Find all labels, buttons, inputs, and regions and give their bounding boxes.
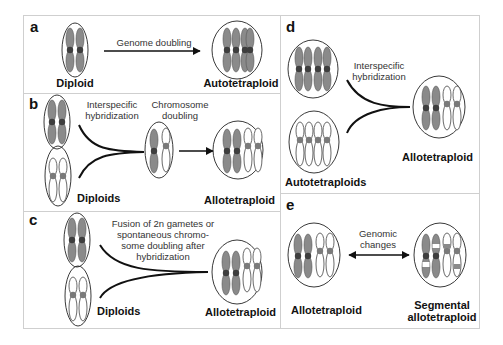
panel-e-letter: e [286,196,294,213]
diploid-light-cell [45,146,71,206]
genomic-changes-label-1: Genomic [359,228,397,239]
merge-curve-bottom [347,107,410,133]
allotetraploid-label: Allotetraploid [291,304,362,316]
allotetraploid-cell [213,121,263,179]
diploids-label: Diploids [77,192,120,204]
hybridization-label-1: Interspecific [87,99,138,110]
fusion-label-1: Fusion of 2n gametes or [112,218,214,229]
panel-a: a Diploid Genome doubling Autotetraploid [30,18,279,89]
diploid-light-cell [65,266,91,326]
autotetraploid-cell [212,21,262,79]
hybridization-label-2: hybridization [85,110,138,121]
allotetraploid-cell [413,76,465,138]
allotetraploid-label: Allotetraploid [204,194,275,206]
autotetraploids-label: Autotetraploids [285,176,366,188]
polyploidy-figure: a Diploid Genome doubling Autotetraploid… [0,0,503,345]
fusion-label-3: some doubling after [121,240,204,251]
segmental-allotetraploid-cell [414,223,466,287]
allotetraploid-label: Allotetraploid [402,151,473,163]
merge-curve-top [347,80,410,107]
doubling-label-2: doubling [162,110,198,121]
autotetraploid-dark-cell [288,40,338,98]
diploids-label: Diploids [97,305,140,317]
panel-c: c Diploids Fusion of 2n gametes or spont… [29,211,276,326]
segmental-label-2: allotetraploid [407,311,476,323]
autotetraploid-light-cell [289,111,339,173]
segmental-label-1: Segmental [414,299,470,311]
panel-d-letter: d [286,18,295,35]
panel-a-letter: a [30,18,39,35]
diploid-cell [62,23,88,77]
hybridization-label-2: hybridization [352,71,405,82]
panel-c-letter: c [29,211,37,228]
genome-doubling-label: Genome doubling [117,37,192,48]
genomic-changes-label-2: changes [360,239,396,250]
fusion-label-2: spontaneous chromo- [117,229,209,240]
allotetraploid-cell [212,240,262,304]
doubling-label-1: Chromosome [151,99,208,110]
diploid-dark-cell [44,95,70,149]
hybridization-label-1: Interspecific [354,60,405,71]
panel-b: b Diploids Interspecific hybridization C… [29,95,275,206]
allotetraploid-label: Allotetraploid [205,306,276,318]
merge-curve-bottom [100,272,208,298]
diploid-label: Diploid [56,77,93,89]
diploid-dark-cell [64,213,90,267]
panel-d: d Autotetraploids Interspecific hybridiz… [285,18,473,188]
fusion-label-4: hybridization [136,251,189,262]
autotetraploid-label: Autotetraploid [203,77,278,89]
hybrid-cell [145,122,173,178]
panel-b-letter: b [29,95,38,112]
panel-e: e Allotetraploid Genomic changes Segment… [286,196,477,323]
allotetraploid-cell [288,223,340,287]
merge-curve-top [79,125,144,152]
merge-curve-bottom [79,152,144,178]
